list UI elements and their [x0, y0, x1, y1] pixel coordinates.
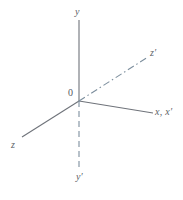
x-axis-line	[79, 101, 153, 113]
x-axis-label: x, x′	[155, 107, 173, 117]
z-prime-axis-line	[79, 57, 148, 101]
axes-drawing	[0, 0, 183, 200]
y-prime-axis-label: y′	[76, 172, 83, 182]
origin-label: 0	[68, 88, 73, 98]
z-axis-line	[22, 101, 79, 137]
coordinate-axes-figure: y z′ x, x′ z y′ 0	[0, 0, 183, 200]
z-prime-axis-label: z′	[150, 48, 156, 58]
z-axis-label: z	[11, 140, 15, 150]
y-axis-label: y	[75, 7, 79, 17]
